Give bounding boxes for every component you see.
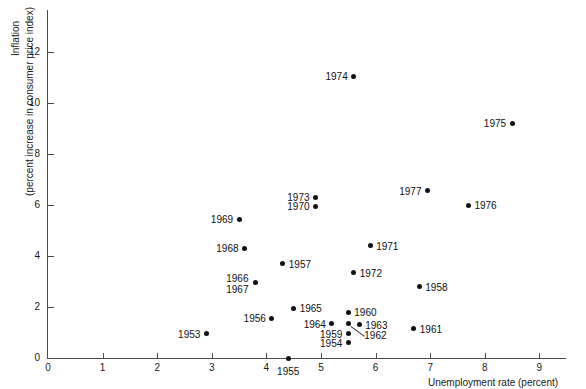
data-point-label: 1973 bbox=[287, 192, 309, 203]
x-tick-mark bbox=[376, 353, 377, 359]
data-point bbox=[411, 326, 416, 331]
data-point bbox=[357, 322, 362, 327]
data-point-label: 1974 bbox=[326, 71, 348, 82]
data-point-label: 1960 bbox=[354, 307, 376, 318]
y-tick-mark bbox=[48, 103, 54, 104]
data-point-label: 1959 bbox=[320, 328, 342, 339]
data-point-label: 1975 bbox=[484, 118, 506, 129]
x-axis-title: Unemployment rate (percent) bbox=[428, 377, 558, 388]
data-point-label: 1955 bbox=[277, 366, 299, 377]
data-point-label: 1962 bbox=[364, 329, 386, 340]
data-point bbox=[368, 243, 373, 248]
y-tick-label: 4 bbox=[14, 250, 40, 261]
data-point-label: 1971 bbox=[376, 240, 398, 251]
x-tick-label: 3 bbox=[200, 362, 224, 373]
y-tick-mark bbox=[48, 358, 54, 359]
data-point-label: 1977 bbox=[399, 185, 421, 196]
x-tick-mark bbox=[212, 353, 213, 359]
x-tick-mark bbox=[430, 353, 431, 359]
x-tick-mark bbox=[103, 353, 104, 359]
data-point-label: 1961 bbox=[420, 323, 442, 334]
data-point-label: 1966 bbox=[226, 272, 248, 283]
data-point bbox=[253, 280, 258, 285]
data-point bbox=[237, 217, 242, 222]
data-point-label: 1963 bbox=[365, 319, 387, 330]
label-leader-line bbox=[351, 326, 366, 337]
x-tick-label: 4 bbox=[254, 362, 278, 373]
data-point-label: 1958 bbox=[425, 281, 447, 292]
data-point bbox=[329, 321, 334, 326]
y-tick-mark bbox=[48, 256, 54, 257]
data-point-label: 1972 bbox=[360, 267, 382, 278]
data-point-label: 1957 bbox=[289, 258, 311, 269]
y-tick-label: 6 bbox=[14, 199, 40, 210]
data-point bbox=[351, 270, 356, 275]
y-tick-label: 2 bbox=[14, 301, 40, 312]
data-point bbox=[351, 74, 356, 79]
y-tick-label: 8 bbox=[14, 148, 40, 159]
x-tick-label: 0 bbox=[36, 362, 60, 373]
x-tick-mark bbox=[266, 353, 267, 359]
scatter-chart: Inflation (percent increase in consumer … bbox=[0, 0, 586, 389]
y-tick-label: 10 bbox=[14, 97, 40, 108]
data-point-label: 1967 bbox=[226, 283, 248, 294]
data-point bbox=[280, 261, 285, 266]
data-point bbox=[346, 310, 351, 315]
data-point bbox=[346, 340, 351, 345]
data-point-label: 1968 bbox=[216, 243, 238, 254]
x-tick-label: 5 bbox=[309, 362, 333, 373]
data-point bbox=[291, 306, 296, 311]
x-tick-label: 1 bbox=[91, 362, 115, 373]
x-tick-mark bbox=[485, 353, 486, 359]
data-point-label: 1976 bbox=[474, 200, 496, 211]
y-tick-mark bbox=[48, 154, 54, 155]
data-point bbox=[313, 204, 318, 209]
data-point bbox=[269, 316, 274, 321]
data-point-label: 1969 bbox=[211, 214, 233, 225]
x-tick-label: 8 bbox=[473, 362, 497, 373]
data-point bbox=[313, 195, 318, 200]
x-tick-mark bbox=[321, 353, 322, 359]
data-point-label: 1953 bbox=[178, 328, 200, 339]
x-tick-label: 7 bbox=[418, 362, 442, 373]
data-point bbox=[417, 284, 422, 289]
data-point bbox=[466, 203, 471, 208]
data-point bbox=[286, 356, 291, 361]
data-point bbox=[242, 246, 247, 251]
y-tick-mark bbox=[48, 52, 54, 53]
data-point bbox=[204, 331, 209, 336]
y-tick-mark bbox=[48, 307, 54, 308]
x-axis-line bbox=[47, 358, 566, 359]
y-tick-label: 12 bbox=[14, 46, 40, 57]
data-point bbox=[346, 331, 351, 336]
data-point bbox=[510, 121, 515, 126]
x-tick-mark bbox=[157, 353, 158, 359]
data-point-label: 1964 bbox=[304, 318, 326, 329]
data-point-label: 1956 bbox=[244, 313, 266, 324]
data-point-label: 1965 bbox=[300, 303, 322, 314]
x-tick-label: 6 bbox=[364, 362, 388, 373]
x-tick-label: 2 bbox=[145, 362, 169, 373]
x-tick-mark bbox=[539, 353, 540, 359]
x-tick-label: 9 bbox=[527, 362, 551, 373]
y-tick-mark bbox=[48, 205, 54, 206]
data-point bbox=[425, 188, 430, 193]
